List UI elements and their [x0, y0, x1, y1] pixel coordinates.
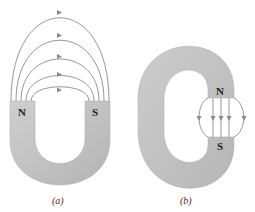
south-pole-label-b: S	[217, 140, 223, 152]
panel-a: N S (a)	[10, 10, 110, 207]
field-line	[26, 76, 94, 102]
north-pole-label-b: N	[216, 85, 224, 97]
arrow-down-icon	[227, 116, 232, 121]
field-line	[21, 59, 99, 101]
arrow-icons-a	[57, 10, 62, 93]
south-pole-label-a: S	[92, 106, 98, 118]
field-line	[16, 40, 104, 101]
arrow-right-icon	[57, 54, 62, 59]
arrow-right-icon	[57, 33, 62, 38]
north-pole-label-a: N	[18, 106, 26, 118]
panel-b: N S (b)	[138, 46, 247, 207]
arrow-down-icon	[219, 116, 224, 121]
magnet-field-diagram: N S (a) N S (b)	[0, 0, 255, 212]
caption-a: (a)	[52, 195, 64, 207]
arrow-down-icon	[197, 116, 202, 121]
arrow-down-icon	[242, 116, 247, 121]
field-lines-a	[11, 18, 109, 101]
arrow-right-icon	[57, 72, 62, 77]
arrow-icons-b	[197, 116, 247, 121]
field-line	[31, 87, 89, 101]
caption-b: (b)	[180, 195, 192, 207]
arrow-right-icon	[57, 10, 62, 15]
arrow-right-icon	[57, 88, 62, 93]
arrow-down-icon	[211, 116, 216, 121]
